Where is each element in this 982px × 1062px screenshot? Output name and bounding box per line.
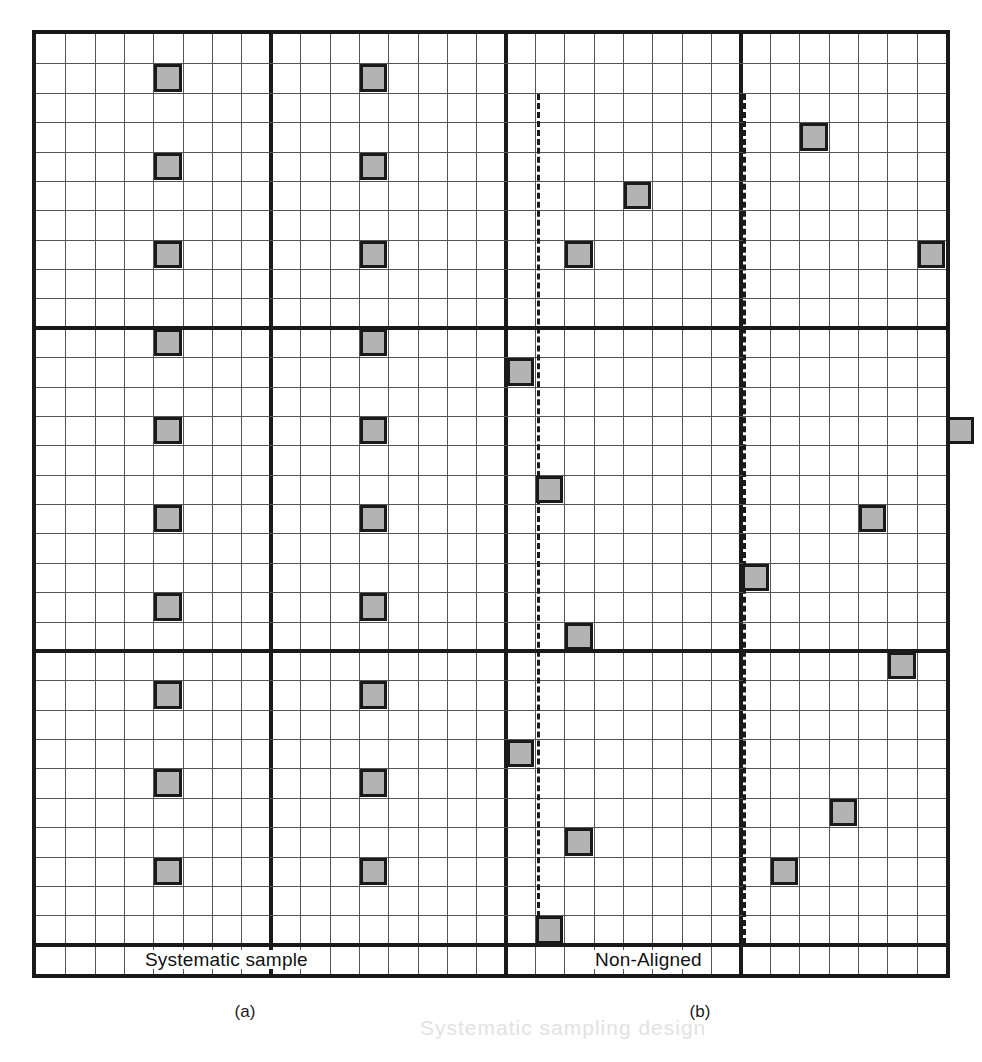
sample-quadrat bbox=[360, 153, 387, 180]
sample-quadrat bbox=[360, 769, 387, 796]
panel-b-inline-label: Non-Aligned bbox=[591, 950, 706, 969]
sample-quadrat bbox=[154, 505, 181, 532]
sample-quadrat bbox=[360, 241, 387, 268]
sample-quadrat bbox=[360, 417, 387, 444]
sample-quadrat bbox=[154, 593, 181, 620]
sample-quadrat bbox=[771, 858, 798, 885]
sample-quadrat bbox=[507, 358, 534, 385]
sample-quadrat bbox=[742, 564, 769, 591]
sample-quadrat bbox=[360, 329, 387, 356]
quadrat-grid: Systematic sample Non-Aligned bbox=[32, 30, 950, 978]
sample-quadrat bbox=[360, 505, 387, 532]
sample-quadrat bbox=[154, 241, 181, 268]
sample-quadrat bbox=[947, 417, 974, 444]
panel-a-caption: (a) bbox=[200, 1002, 290, 1022]
sample-quadrat bbox=[536, 476, 563, 503]
sample-quadrat bbox=[918, 241, 945, 268]
sample-quadrat bbox=[154, 64, 181, 91]
sample-quadrat bbox=[154, 681, 181, 708]
sampling-design-figure: Systematic sampling design Systematic sa… bbox=[0, 0, 982, 1062]
sample-quadrat bbox=[360, 681, 387, 708]
sample-quadrat bbox=[360, 64, 387, 91]
sample-quadrat bbox=[830, 799, 857, 826]
sample-quadrat bbox=[565, 241, 592, 268]
sample-quadrat bbox=[154, 417, 181, 444]
sample-quadrat bbox=[565, 828, 592, 855]
panel-a-inline-label: Systematic sample bbox=[141, 950, 312, 969]
sample-quadrat bbox=[154, 769, 181, 796]
sample-quadrat bbox=[624, 182, 651, 209]
sample-quadrat bbox=[360, 858, 387, 885]
sample-quadrat bbox=[360, 593, 387, 620]
panel-b-caption: (b) bbox=[655, 1002, 745, 1022]
sample-quadrat bbox=[859, 505, 886, 532]
sample-quadrat bbox=[536, 916, 563, 943]
sample-quadrat bbox=[507, 740, 534, 767]
sample-quadrat bbox=[154, 153, 181, 180]
sample-squares-layer bbox=[36, 34, 946, 974]
sample-quadrat bbox=[154, 858, 181, 885]
sample-quadrat bbox=[565, 623, 592, 650]
sample-quadrat bbox=[800, 123, 827, 150]
sample-quadrat bbox=[888, 652, 915, 679]
sample-quadrat bbox=[154, 329, 181, 356]
